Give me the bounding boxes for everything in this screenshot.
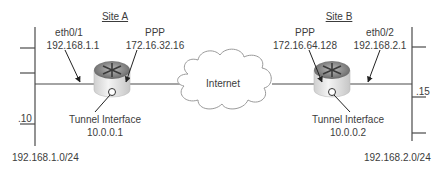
site-a-tunnel-ip: 10.0.0.1: [87, 127, 123, 138]
site-b-lan-bus: [412, 27, 426, 141]
site-b-host-suffix: .15: [416, 86, 430, 97]
arrow-eth0-2: [368, 50, 380, 82]
site-a-lan-bus: [20, 27, 35, 146]
router-b-icon: [314, 61, 350, 97]
site-a-lan-interface-name: eth0/1: [55, 27, 83, 38]
site-a-lan-interface-ip: 192.168.1.1: [47, 40, 100, 51]
site-b-wan-interface-name: PPP: [295, 27, 315, 38]
site-b-tunnel-ip: 10.0.0.2: [330, 127, 366, 138]
site-a-title: Site A: [102, 11, 128, 22]
site-b-tunnel-label: Tunnel Interface: [312, 114, 384, 125]
pointer-tunnel-a: [95, 95, 110, 112]
site-a-host-suffix: .10: [18, 113, 32, 124]
site-a-tunnel-label: Tunnel Interface: [69, 114, 141, 125]
site-b-wan-interface-ip: 172.16.64.128: [273, 40, 337, 51]
router-a-icon: [94, 61, 130, 97]
site-a-wan-interface-ip: 172.16.32.16: [126, 40, 184, 51]
arrow-eth0-1: [65, 50, 80, 82]
site-b-lan-interface-name: eth0/2: [366, 27, 394, 38]
site-b-subnet: 192.168.2.0/24: [364, 152, 431, 163]
site-a-wan-interface-name: PPP: [145, 27, 165, 38]
site-a-subnet: 192.168.1.0/24: [12, 152, 79, 163]
site-b-lan-interface-ip: 192.168.2.1: [354, 40, 407, 51]
internet-label: Internet: [206, 78, 240, 89]
pointer-tunnel-b: [334, 95, 350, 112]
site-b-title: Site B: [326, 11, 353, 22]
